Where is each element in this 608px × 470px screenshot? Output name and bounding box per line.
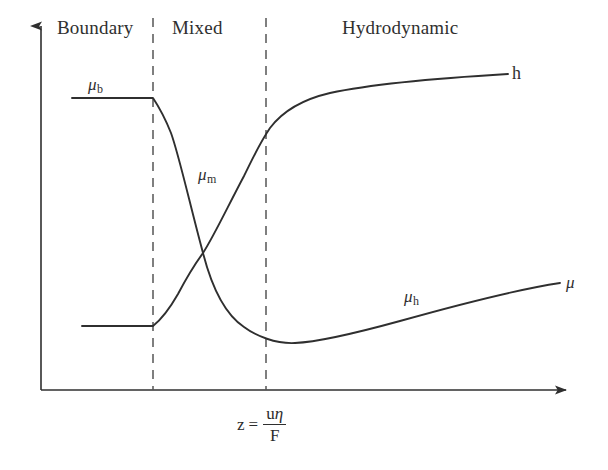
curve-label-h: h <box>512 64 521 82</box>
curve-label-mu-base: μ <box>566 273 575 292</box>
curve-label-mu-h-base: μ <box>404 287 413 306</box>
curve-label-mu-m-base: μ <box>198 165 207 184</box>
film-thickness-curve <box>82 74 508 326</box>
x-axis-fraction-numerator: uη <box>263 404 286 425</box>
curve-label-h-base: h <box>512 63 521 83</box>
x-axis-numerator-eta: η <box>275 404 283 423</box>
curve-label-mu-m: μm <box>198 166 216 185</box>
curve-label-mu-b: μb <box>88 76 103 95</box>
curve-label-mu-h-sub: h <box>413 294 419 308</box>
region-label-boundary: Boundary <box>57 18 134 37</box>
x-axis-numerator-u: u <box>266 404 275 423</box>
x-axis-equals-sign: = <box>249 415 259 435</box>
curve-label-mu-b-base: μ <box>88 75 97 94</box>
x-axis-variable: z <box>237 415 245 435</box>
friction-coefficient-curve <box>72 98 560 343</box>
region-label-mixed: Mixed <box>172 18 223 37</box>
curve-label-mu: μ <box>566 274 575 291</box>
x-axis-label: z = uη F <box>237 404 286 445</box>
region-label-hydrodynamic: Hydrodynamic <box>342 18 458 37</box>
x-axis-fraction: uη F <box>263 404 286 445</box>
curve-label-mu-h: μh <box>404 288 419 307</box>
curve-label-mu-m-sub: m <box>207 172 216 186</box>
stribeck-curve-figure: Boundary Mixed Hydrodynamic μb μm μh μ h… <box>0 0 608 470</box>
curve-label-mu-b-sub: b <box>97 82 103 96</box>
x-axis-fraction-denominator: F <box>267 425 282 445</box>
